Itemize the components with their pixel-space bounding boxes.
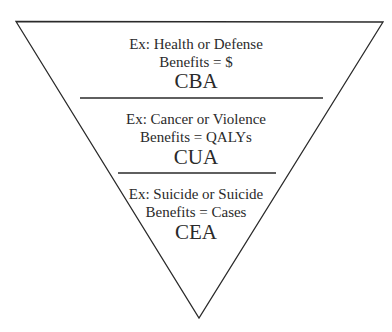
section-3-method: CEA	[0, 222, 392, 243]
section-2-example: Ex: Cancer or Violence	[0, 112, 392, 127]
section-1-method: CBA	[0, 71, 392, 92]
section-2-method: CUA	[0, 147, 392, 168]
section-3-benefits: Benefits = Cases	[0, 205, 392, 220]
section-1-benefits: Benefits = $	[0, 55, 392, 70]
section-3-example: Ex: Suicide or Suicide	[0, 187, 392, 202]
section-2-benefits: Benefits = QALYs	[0, 130, 392, 145]
section-1-example: Ex: Health or Defense	[0, 37, 392, 52]
